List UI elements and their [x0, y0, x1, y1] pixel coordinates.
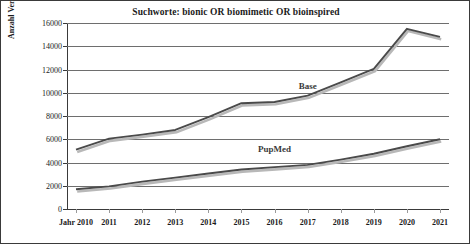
x-tick-label: 2017 [300, 218, 316, 227]
y-tick-label: 8000 [46, 112, 62, 121]
x-tick-mark [142, 209, 143, 213]
x-tick-mark [76, 209, 77, 213]
x-tick-mark [208, 209, 209, 213]
x-tick-mark [308, 209, 309, 213]
series-lines [67, 23, 449, 209]
chart-title: Suchworte: bionic OR biomimetic OR bioin… [1, 7, 470, 17]
series-label-base: Base [299, 81, 317, 91]
series-label-pupmed: PupMed [258, 144, 291, 154]
x-tick-mark [341, 209, 342, 213]
y-tick-label: 0 [58, 205, 62, 214]
x-tick-mark [407, 209, 408, 213]
y-axis-label: Anzahl Veröffentlichungen [7, 0, 16, 53]
y-tick-label: 2000 [46, 181, 62, 190]
x-tick-label: Jahr 2010 [59, 218, 93, 227]
chart-frame: Suchworte: bionic OR biomimetic OR bioin… [0, 0, 470, 244]
x-tick-label: 2014 [200, 218, 216, 227]
x-tick-label: 2020 [399, 218, 415, 227]
x-tick-label: 2019 [366, 218, 382, 227]
y-tick-label: 6000 [46, 135, 62, 144]
x-tick-label: 2021 [432, 218, 448, 227]
x-tick-label: 2011 [101, 218, 117, 227]
x-tick-mark [440, 209, 441, 213]
y-tick-label: 14000 [42, 42, 62, 51]
x-tick-label: 2013 [167, 218, 183, 227]
x-tick-mark [109, 209, 110, 213]
x-tick-label: 2015 [233, 218, 249, 227]
y-tick-label: 16000 [42, 19, 62, 28]
y-tick-label: 10000 [42, 88, 62, 97]
x-tick-mark [374, 209, 375, 213]
x-tick-label: 2012 [134, 218, 150, 227]
plot-area: 1600014000120001000080006000400020000 Ja… [67, 23, 449, 209]
x-tick-label: 2016 [267, 218, 283, 227]
x-tick-mark [275, 209, 276, 213]
series-shadow-base [77, 31, 441, 152]
x-tick-label: 2018 [333, 218, 349, 227]
x-tick-mark [175, 209, 176, 213]
y-tick-label: 4000 [46, 158, 62, 167]
gridline [67, 209, 449, 210]
y-tick-mark [63, 209, 67, 210]
x-tick-mark [241, 209, 242, 213]
y-tick-label: 12000 [42, 65, 62, 74]
series-line-base [76, 29, 440, 150]
